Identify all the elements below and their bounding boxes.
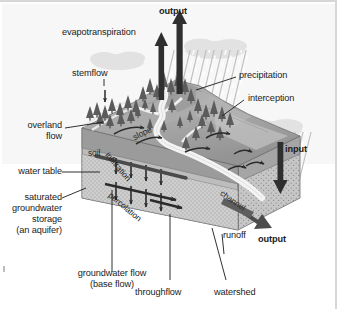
label-saturated-line3: storage bbox=[0, 214, 62, 225]
label-saturated-line2: groundwater bbox=[0, 203, 62, 214]
label-output-top: output bbox=[159, 6, 187, 17]
diagram-canvas bbox=[0, 2, 337, 309]
label-output-right: output bbox=[258, 234, 286, 245]
label-saturated-line1: saturated bbox=[0, 192, 62, 203]
label-stemflow: stemflow bbox=[72, 68, 107, 79]
label-throughflow: throughflow bbox=[135, 287, 181, 298]
margin-artifact bbox=[3, 266, 5, 272]
label-overland-flow-line2: flow bbox=[0, 131, 62, 142]
label-interception: interception bbox=[248, 93, 294, 104]
label-overland-flow-line1: overland bbox=[0, 120, 62, 131]
label-precipitation: precipitation bbox=[239, 70, 287, 81]
label-watershed: watershed bbox=[214, 287, 256, 298]
label-evapotranspiration: evapotranspiration bbox=[62, 27, 136, 38]
label-groundwater-flow-line1: groundwater flow bbox=[42, 268, 182, 279]
label-water-table: water table bbox=[0, 166, 62, 177]
label-runoff: runoff bbox=[223, 230, 246, 241]
label-saturated-line4: (an aquifer) bbox=[0, 225, 62, 236]
hydrological-cycle-figure: output evapotranspiration stemflow preci… bbox=[0, 0, 337, 309]
label-soil: soil bbox=[88, 148, 100, 159]
label-input: input bbox=[285, 144, 307, 155]
